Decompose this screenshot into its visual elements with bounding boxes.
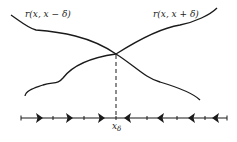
label-r-minus-delta: r(x, x − δ): [25, 9, 71, 19]
label-r-plus-delta: r(x, x + δ): [153, 9, 199, 19]
curve-r-minus-delta: [11, 15, 200, 100]
curve-r-plus-delta: [25, 8, 217, 96]
axis-label-subscript: δ: [117, 125, 121, 133]
axis-label-x-delta: xδ: [112, 121, 121, 133]
